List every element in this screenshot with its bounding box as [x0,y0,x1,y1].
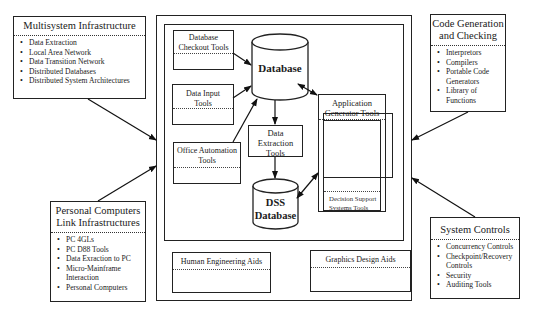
title-line: Link Infrastructures [51,217,145,229]
list-item: Auditing Tools [437,280,519,290]
dss-text: DSS [250,196,301,209]
system-controls-title: System Controls [431,218,519,236]
title-line: Tools [249,148,302,158]
dss-text: Database [250,209,301,222]
divider [14,35,145,36]
title-line: Personal Computers [51,205,145,217]
arrow-pc-to-frame [98,166,156,201]
title-line: Data [249,128,302,138]
list-item: Local Area Network [20,48,145,58]
list-item: Micro-Mainframe Interaction [57,264,145,283]
code-generation-title: Code Generation and Checking [431,15,505,42]
tool-title: Data Input Tools [173,85,233,109]
list-item: Data Extraction [20,38,145,48]
title-line: and Checking [431,30,505,42]
tool-title: Database Checkout Tools [174,31,233,53]
tool-title: Human Engineering Aids [173,253,270,267]
list-item: Personal Computers [57,283,145,293]
data-extraction-tools-box: Data Extraction Tools [248,125,303,157]
graphics-design-aids-box: Graphics Design Aids [310,250,411,292]
arrow-codegen-to-frame [412,112,468,140]
title-line: Checkout Tools [174,43,233,53]
code-generation-list: Interpretors Compilers Portable Code Gen… [431,48,505,106]
title-line: Code Generation [431,18,505,30]
tool-title: Data Extraction Tools [249,126,302,158]
personal-computers-list: PC 4GLs PC D88 Tools Data Exraction to P… [51,235,145,293]
multisystem-title: Multisystem Infrastructure [14,17,145,32]
dss-database-label: DSS Database [250,196,301,222]
divider [174,167,240,168]
human-engineering-aids-box: Human Engineering Aids [172,252,271,293]
divider [174,53,233,54]
data-input-tools-box: Data Input Tools [172,84,234,125]
list-item: Data Exraction to PC [57,254,145,264]
list-item: Checkpoint/Recovery Controls [437,252,519,271]
system-controls-box: System Controls Concurrency Controls Che… [430,217,520,299]
divider [431,239,519,240]
list-item: Data Transition Network [20,57,145,67]
database-label: Database [252,62,308,75]
tool-title: Graphics Design Aids [311,251,410,265]
divider [51,232,145,233]
list-item: Concurrency Controls [437,242,519,252]
title-line: Database [174,33,233,43]
multisystem-infrastructure-box: Multisystem Infrastructure Data Extracti… [13,16,146,99]
title-line: Office Automation [174,146,240,156]
list-item: Distributed System Architectures [20,76,145,86]
database-checkout-tools-box: Database Checkout Tools [173,30,234,70]
divider [173,269,270,270]
arrow-multisystem-to-frame [88,99,156,140]
list-item: Compilers [437,58,505,68]
office-automation-tools-box: Office Automation Tools [173,142,241,184]
code-generation-box: Code Generation and Checking Interpretor… [430,14,506,112]
title-line: Tools [174,156,240,166]
arrow-syscontrols-to-frame [412,178,475,217]
multisystem-list: Data Extraction Local Area Network Data … [14,38,145,86]
list-item: Security [437,271,519,281]
list-item: Interpretors [437,48,505,58]
title-line: Extraction [249,138,302,148]
list-item: Distributed Databases [20,67,145,77]
list-item: PC 4GLs [57,235,145,245]
list-item: PC D88 Tools [57,245,145,255]
divider [173,108,233,109]
list-item: Library of Functions [437,86,505,105]
database-text: Database [258,62,301,74]
title-line: Data Input [173,89,233,99]
list-item: Portable Code Generators [437,67,505,86]
divider [311,267,410,268]
tool-title: Office Automation Tools [174,143,240,166]
divider [431,45,505,46]
personal-computers-box: Personal Computers Link Infrastructures … [50,201,146,302]
application-workspace-box [323,113,393,178]
personal-computers-title: Personal Computers Link Infrastructures [51,202,145,229]
system-controls-list: Concurrency Controls Checkpoint/Recovery… [431,242,519,290]
